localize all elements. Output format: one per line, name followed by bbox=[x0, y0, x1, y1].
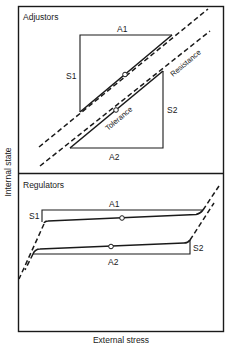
adjustors-panel: Adjustors A1 S1 S2 A2 Resistance Toleran… bbox=[23, 9, 210, 166]
adjustors-label-a2: A2 bbox=[109, 152, 120, 162]
regulators-lower-right-dashed bbox=[190, 203, 214, 240]
adjustors-label-s1: S1 bbox=[66, 71, 77, 81]
regulators-panel: Regulators A1 S1 S2 A2 bbox=[19, 180, 219, 279]
regulators-upper-left-dashed bbox=[19, 224, 44, 279]
adjustors-regulators-diagram: Adjustors A1 S1 S2 A2 Resistance Toleran… bbox=[0, 0, 233, 348]
adjustors-label-a1: A1 bbox=[117, 24, 128, 34]
adjustors-lower-point-icon bbox=[114, 108, 119, 113]
adjustors-label-resistance: Resistance bbox=[169, 48, 203, 79]
regulators-lower-point-icon bbox=[109, 244, 114, 249]
y-axis-label: Internal state bbox=[3, 147, 13, 196]
regulators-label-s1: S1 bbox=[29, 211, 40, 221]
adjustors-label-s2: S2 bbox=[167, 105, 178, 115]
regulators-label-a1: A1 bbox=[109, 199, 120, 209]
regulators-upper-point-icon bbox=[120, 216, 125, 221]
regulators-upper-right-dashed bbox=[203, 186, 219, 210]
regulators-label-s2: S2 bbox=[193, 243, 204, 253]
adjustors-upper-point-icon bbox=[123, 72, 128, 77]
regulators-title: Regulators bbox=[23, 180, 64, 190]
adjustors-label-tolerance: Tolerance bbox=[104, 105, 135, 133]
adjustors-title: Adjustors bbox=[23, 12, 58, 22]
x-axis-label: External stress bbox=[93, 335, 149, 345]
adjustors-tolerance-dashed-line bbox=[40, 31, 210, 166]
regulators-label-a2: A2 bbox=[108, 257, 119, 267]
